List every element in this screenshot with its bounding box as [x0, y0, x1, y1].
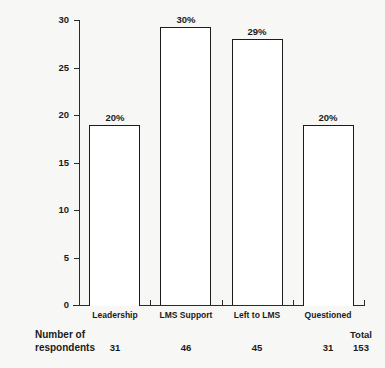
y-axis-tick-label: 0 [29, 300, 69, 310]
bar-value-label: 20% [298, 112, 358, 123]
y-axis-tick [74, 115, 80, 116]
y-axis-tick-label: 20 [29, 110, 69, 120]
footer-respondent-count: 46 [156, 341, 216, 354]
x-axis-tick [150, 300, 151, 306]
y-axis-tick-label: 10 [29, 205, 69, 215]
bar-value-label: 30% [156, 14, 216, 25]
x-axis-category-label: Questioned [288, 310, 368, 321]
footer-total-value: 153 [341, 341, 381, 354]
bar-questioned [303, 125, 354, 306]
y-axis-tick-label: 25 [29, 63, 69, 73]
x-axis-tick [79, 300, 80, 306]
x-axis-category-label: Leadership [75, 310, 155, 321]
y-axis-tick-label: 30 [29, 15, 69, 25]
x-axis-tick [293, 300, 294, 306]
bar-value-label: 29% [227, 26, 287, 37]
y-axis-tick [74, 68, 80, 69]
bar-value-label: 20% [85, 112, 145, 123]
plot-area: 051015202530 20%Leadership30%LMS Support… [0, 0, 385, 310]
footer-respondent-count: 31 [85, 341, 145, 354]
x-axis-tick [364, 300, 365, 306]
y-axis-tick-label: 5 [29, 253, 69, 263]
bar-lms-support [160, 27, 211, 305]
bar-leadership [89, 125, 140, 306]
footer-respondent-count: 45 [227, 341, 287, 354]
respondents-footer: Number of respondents 31464531 Total 153 [0, 328, 385, 368]
y-axis-tick-label: 15 [29, 158, 69, 168]
y-axis-tick [74, 20, 80, 21]
x-axis-category-label: LMS Support [146, 310, 226, 321]
footer-total-label: Total [341, 328, 381, 341]
x-axis-tick [222, 300, 223, 306]
y-axis-tick [74, 258, 80, 259]
bar-left-to-lms [232, 39, 283, 305]
x-axis-category-label: Left to LMS [217, 310, 297, 321]
bar-chart: 051015202530 20%Leadership30%LMS Support… [0, 0, 385, 368]
y-axis-tick [74, 163, 80, 164]
y-axis-tick [74, 210, 80, 211]
